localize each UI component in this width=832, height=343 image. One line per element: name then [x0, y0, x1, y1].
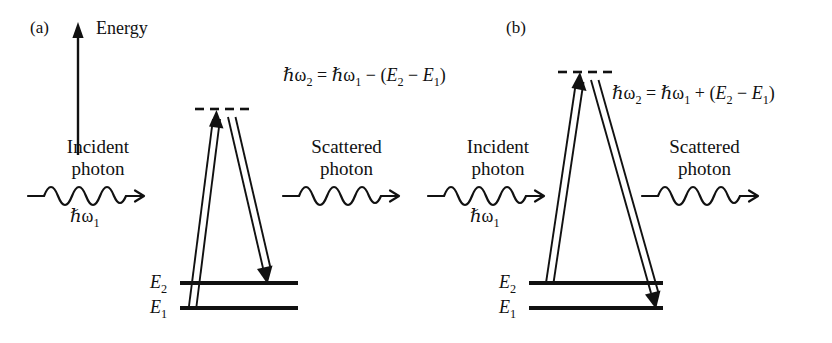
energy-level-label-E1: E1: [499, 297, 516, 321]
absorption-arrow-up: [189, 110, 224, 306]
incident-photon-label: Incident photon: [38, 136, 158, 181]
incident-photon-wave-arrow: [428, 187, 544, 205]
panel-b: (b) ℏω2 = ℏω1 + (E2 − E1) Incident photo…: [416, 0, 832, 343]
scattered-photon-wave-arrow: [642, 187, 758, 205]
energy-level-label-E1: E1: [150, 297, 167, 321]
energy-level-label-E2: E2: [499, 272, 516, 296]
energy-level-label-E2: E2: [150, 272, 167, 296]
incident-photon-energy-label: ℏω1: [70, 206, 100, 230]
incident-photon-label: Incident photon: [438, 136, 558, 181]
panel-label-a: (a): [30, 18, 49, 37]
incident-photon-line2: photon: [72, 158, 125, 179]
scattered-photon-wave-arrow: [283, 187, 399, 205]
energy-axis-label: Energy: [96, 18, 148, 38]
panel-a: (a) Energy ℏω2 = ℏω1 − (E2 − E1) Inciden…: [0, 0, 416, 343]
raman-scattering-figure: (a) Energy ℏω2 = ℏω1 − (E2 − E1) Inciden…: [0, 0, 832, 343]
emission-arrow-down: [591, 80, 661, 309]
incident-photon-line1: Incident: [467, 136, 529, 157]
scattered-photon-line1: Scattered: [669, 136, 740, 157]
incident-photon-line2: photon: [472, 158, 525, 179]
scattered-photon-line1: Scattered: [311, 136, 382, 157]
scattered-photon-label: Scattered photon: [284, 136, 409, 181]
emission-arrow-down: [228, 117, 273, 284]
scattered-photon-label: Scattered photon: [642, 136, 767, 181]
scattered-photon-line2: photon: [678, 158, 731, 179]
incident-photon-line1: Incident: [67, 136, 129, 157]
incident-photon-wave-arrow: [28, 187, 144, 205]
formula-antistokes: ℏω2 = ℏω1 + (E2 − E1): [612, 83, 775, 107]
incident-photon-energy-label: ℏω1: [470, 206, 500, 230]
scattered-photon-line2: photon: [320, 158, 373, 179]
panel-label-b: (b): [506, 18, 526, 37]
